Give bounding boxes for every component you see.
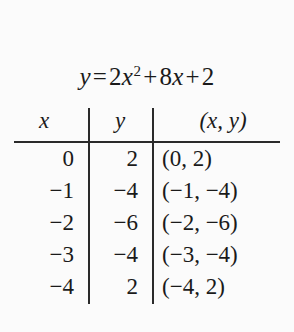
table-row: −4 2 (−4, 2) <box>0 271 294 303</box>
equation-plus-sign-2: + <box>184 63 202 90</box>
table-header-row: x y (x, y) <box>0 104 294 138</box>
cell-xy-pair: (−1, −4) <box>152 175 294 207</box>
cell-y: 2 <box>88 271 152 303</box>
cell-xy-pair: (−2, −6) <box>152 207 294 239</box>
column-header-y: y <box>88 104 152 138</box>
cell-x: −3 <box>0 239 88 271</box>
table-row: 0 2 (0, 2) <box>0 143 294 175</box>
cell-x: 0 <box>0 143 88 175</box>
equation-coefficient-b: 8 <box>160 63 173 90</box>
cell-x: −1 <box>0 175 88 207</box>
cell-y: −4 <box>88 175 152 207</box>
cell-y: 2 <box>88 143 152 175</box>
cell-xy-pair: (0, 2) <box>152 143 294 175</box>
cell-x: −4 <box>0 271 88 303</box>
table-row: −1 −4 (−1, −4) <box>0 175 294 207</box>
cell-xy-pair: (−3, −4) <box>152 239 294 271</box>
column-header-x: x <box>0 104 88 138</box>
equation-heading: y=2x2+8x+2 <box>0 62 294 92</box>
equation-equals-sign: = <box>91 63 109 90</box>
equation-plus-sign-1: + <box>141 63 159 90</box>
value-table-grid: x y (x, y) 0 2 (0, 2) −1 −4 (−1, <box>0 104 294 303</box>
equation-constant: 2 <box>202 63 215 90</box>
table-row: −2 −6 (−2, −6) <box>0 207 294 239</box>
equation-variable-x-linear: x <box>172 63 183 90</box>
equation-lhs: y <box>79 63 90 90</box>
table-row: −3 −4 (−3, −4) <box>0 239 294 271</box>
equation-coefficient-a: 2 <box>109 63 122 90</box>
cell-y: −6 <box>88 207 152 239</box>
cell-xy-pair: (−4, 2) <box>152 271 294 303</box>
column-header-xy-pair: (x, y) <box>152 104 294 138</box>
quadratic-function-table-figure: y=2x2+8x+2 x y (x, y) 0 2 <box>0 0 294 332</box>
cell-y: −4 <box>88 239 152 271</box>
cell-x: −2 <box>0 207 88 239</box>
equation-variable-x: x <box>122 63 133 90</box>
